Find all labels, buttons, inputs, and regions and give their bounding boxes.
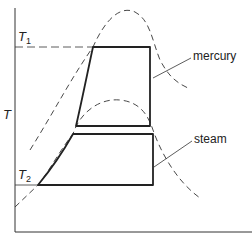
mercury-label: mercury	[193, 49, 236, 63]
mercury-leader-line	[153, 58, 191, 78]
steam-label: steam	[194, 132, 227, 146]
mercury-saturation-dome	[30, 10, 188, 150]
y-axis-label: T	[3, 107, 11, 122]
t2-symbol: T	[18, 167, 26, 182]
steam-leader-line	[154, 141, 192, 167]
t1-label: T1	[18, 29, 31, 44]
steam-saturation-dome	[15, 100, 200, 207]
t1-symbol: T	[18, 29, 26, 44]
t2-subscript: 2	[26, 174, 31, 184]
t2-label: T2	[18, 167, 31, 182]
t1-subscript: 1	[26, 36, 31, 46]
mercury-cycle	[76, 47, 150, 126]
ts-diagram	[0, 0, 252, 240]
